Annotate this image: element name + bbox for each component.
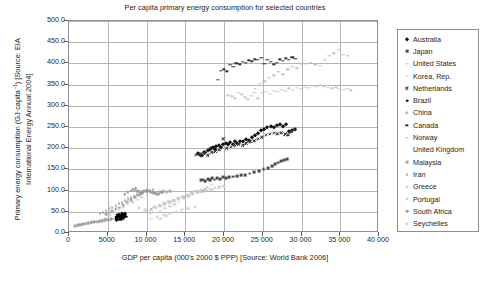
y-tick-mark [64,62,68,63]
data-point [246,99,249,100]
data-point [159,210,162,211]
legend-marker-icon [402,157,412,167]
data-point [218,186,221,189]
legend-item-portugal[interactable]: Portugal [398,193,478,205]
legend-item-south-africa[interactable]: South Africa [398,205,478,217]
data-point [168,201,171,204]
data-point [258,83,261,84]
legend-item-china[interactable]: China [398,107,478,119]
data-point [127,197,129,200]
data-point [304,63,307,64]
data-point [280,131,283,134]
legend-item-canada[interactable]: Canada [398,119,478,131]
legend-label: Norway [412,133,437,142]
data-point [140,197,143,198]
y-tick-label: 100.0 [31,186,65,194]
data-point [256,59,259,60]
data-point [177,197,180,200]
data-point [267,166,270,169]
data-point [326,87,329,88]
data-point [150,211,153,214]
data-point [159,204,162,207]
data-point [173,199,176,202]
data-point [133,194,135,197]
data-point [137,189,140,192]
legend-label: Australia [412,35,441,44]
legend-item-malaysia[interactable]: Malaysia [398,156,478,168]
data-point [294,58,297,59]
data-point [244,174,247,177]
data-point [328,55,331,56]
data-point [256,97,259,98]
data-point [163,202,166,205]
x-tick-mark [223,232,224,236]
data-point [275,62,278,63]
data-point [277,71,280,72]
legend-label: Portugal [412,195,440,204]
data-point [117,209,120,210]
data-point [272,75,275,76]
x-tick-label: 40 000 [367,236,389,244]
gridline-vertical [108,21,109,231]
legend-label: South Africa [412,207,452,216]
legend-item-japan[interactable]: Japan [398,45,478,57]
y-tick-label: 200.0 [31,143,65,151]
legend-item-iran[interactable]: Iran [398,168,478,180]
legend-item-netherlands[interactable]: Netherlands [398,82,478,94]
legend-item-norway[interactable]: Norway [398,131,478,143]
x-tick-mark [301,232,302,236]
legend-item-united-states[interactable]: United States [398,58,478,70]
data-point [108,214,111,215]
legend-item-australia[interactable]: Australia [398,33,478,45]
data-point [126,201,129,204]
data-point [194,153,197,156]
chart-legend: AustraliaJapanUnited StatesKorea, Rep.Ne… [397,29,479,232]
data-point [111,205,113,208]
data-point [182,196,185,199]
data-point [287,59,290,60]
x-tick-mark [184,232,185,236]
y-tick-mark [64,20,68,21]
data-point [99,212,101,215]
legend-marker-icon [402,219,412,229]
legend-item-brazil[interactable]: Brazil [398,94,478,106]
data-point [241,144,244,147]
gridline-horizontal [69,148,377,149]
data-point [102,210,104,213]
gridline-horizontal [69,169,377,170]
legend-marker-icon [402,46,412,56]
legend-label: United Kingdom [412,145,464,154]
legend-label: Iran [412,170,425,179]
data-point [202,152,205,155]
data-point [314,64,317,65]
data-point [122,207,125,208]
data-point [250,61,253,62]
x-tick-label: 15 000 [173,236,195,244]
data-point [285,158,288,161]
data-point [219,70,222,71]
data-point [168,190,171,193]
data-point [228,176,231,179]
data-point [131,202,134,203]
legend-label: Korea, Rep. [412,72,451,81]
x-tick-label: 20 000 [212,236,234,244]
data-point [349,89,352,90]
data-point [259,57,262,58]
chart-figure: Per capita primary energy consumption fo… [0,0,483,284]
legend-item-korea-rep[interactable]: Korea, Rep. [398,70,478,82]
data-point [272,131,275,134]
data-point [168,212,171,215]
legend-item-united-kingdom[interactable]: United Kingdom [398,144,478,156]
data-point [272,64,275,65]
data-point [161,191,164,194]
data-point [222,137,225,140]
legend-item-seychelles[interactable]: Seychelles [398,217,478,229]
data-point [323,59,326,60]
data-point [163,208,166,209]
legend-item-greece[interactable]: Greece [398,181,478,193]
data-point [332,53,335,54]
data-point [281,60,284,61]
legend-marker-icon [402,34,412,44]
data-point [193,205,196,208]
data-point [181,209,184,212]
